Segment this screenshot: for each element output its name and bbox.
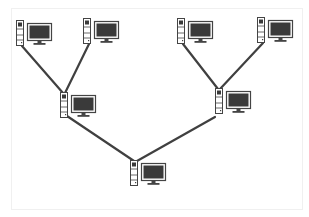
pc-tower-icon [178, 19, 185, 44]
computer-node-leaf-3 [178, 19, 213, 44]
computer-node-leaf-1 [17, 21, 52, 46]
computer-node-leaf-2 [84, 19, 119, 44]
tree-topology-diagram [0, 0, 309, 217]
monitor-icon [28, 24, 52, 45]
monitor-icon [142, 164, 166, 185]
network-link [67, 116, 134, 161]
pc-tower-icon [258, 18, 265, 43]
network-link [183, 44, 218, 89]
pc-tower-icon [17, 21, 24, 46]
network-link [137, 117, 215, 161]
computer-node-mid-left [61, 93, 96, 118]
network-link [22, 46, 63, 93]
network-link [65, 44, 89, 93]
computer-node-root [131, 161, 166, 186]
monitor-icon [269, 21, 293, 42]
pc-tower-icon [216, 89, 223, 114]
monitor-icon [227, 92, 251, 113]
network-link [220, 43, 263, 89]
network-nodes [17, 18, 293, 186]
computer-node-leaf-4 [258, 18, 293, 43]
monitor-icon [189, 22, 213, 43]
monitor-icon [72, 96, 96, 117]
pc-tower-icon [131, 161, 138, 186]
pc-tower-icon [84, 19, 91, 44]
computer-node-mid-right [216, 89, 251, 114]
pc-tower-icon [61, 93, 68, 118]
monitor-icon [95, 22, 119, 43]
